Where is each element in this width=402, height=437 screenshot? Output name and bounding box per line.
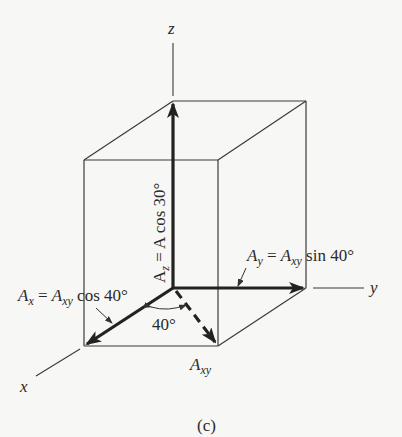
angle-label: 40° [152,315,176,334]
x-axis-label: x [19,377,28,396]
y-axis-label: y [368,278,378,297]
x-component-leader [96,308,112,323]
x-axis [36,349,80,376]
vector-components-diagram: z y x 40° Az = A cos 30° Ay = Axy sin 40… [0,0,402,437]
box [84,101,306,346]
x-component-label: Ax = Axy cos 40° [17,286,128,308]
y-component-label: Ay = Axy sin 40° [246,246,354,268]
z-axis-label: z [167,19,175,38]
y-component-leader [238,268,246,286]
svg-text:Az = A cos 30°: Az = A cos 30° [150,183,172,283]
xy-projection-arrow [176,291,215,342]
figure-caption: (c) [197,416,216,435]
xy-projection-label: Axy [189,355,212,377]
z-component-label: Az = A cos 30° [150,183,172,283]
angle-arc [151,305,186,309]
